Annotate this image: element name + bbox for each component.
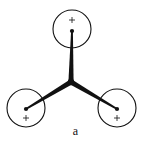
plus-icon-bottom-right <box>114 115 120 121</box>
arm-bottom-right <box>70 80 118 110</box>
node-dot-top <box>70 29 74 33</box>
figure-caption: a <box>0 124 151 138</box>
junction-arms <box>26 31 118 110</box>
arm-top <box>68 31 73 82</box>
plus-icon-top <box>69 17 75 23</box>
junction-hub <box>68 79 74 85</box>
node-dot-bottom-left <box>24 107 28 111</box>
plus-icon-bottom-left <box>23 115 29 121</box>
arm-bottom-left <box>26 80 73 110</box>
node-dot-bottom-right <box>115 107 119 111</box>
